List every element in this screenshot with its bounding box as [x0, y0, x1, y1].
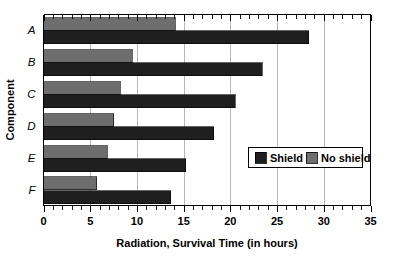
- bar-f-shield: [44, 191, 171, 204]
- x-tick-label-5: 5: [87, 215, 93, 227]
- bar-f-no-shield: [44, 177, 97, 190]
- legend-label-no-shield: No shield: [321, 152, 371, 164]
- x-tick-label-35: 35: [364, 215, 376, 227]
- category-label-b: B: [28, 56, 36, 68]
- category-label-e: E: [28, 152, 36, 164]
- chart-svg: 05101520253035 ABCDEF Radiation, Surviva…: [0, 0, 393, 260]
- legend-label-shield: Shield: [270, 152, 303, 164]
- bar-a-no-shield: [44, 18, 176, 31]
- bar-d-no-shield: [44, 114, 114, 127]
- legend-swatch-shield: [255, 152, 266, 163]
- x-tick-label-0: 0: [40, 215, 46, 227]
- category-label-c: C: [27, 88, 36, 100]
- bar-d-shield: [44, 127, 214, 140]
- category-label-d: D: [27, 120, 35, 132]
- bar-b-no-shield: [44, 50, 133, 63]
- x-tick-label-20: 20: [224, 215, 236, 227]
- bar-e-shield: [44, 159, 186, 172]
- bar-b-shield: [44, 63, 263, 76]
- legend[interactable]: Shield No shield: [249, 148, 371, 168]
- category-label-f: F: [28, 184, 36, 196]
- bar-a-shield: [44, 31, 309, 44]
- bar-e-no-shield: [44, 146, 108, 159]
- x-tick-label-15: 15: [178, 215, 190, 227]
- y-axis-title: Component: [4, 79, 16, 140]
- legend-swatch-no-shield: [306, 152, 317, 163]
- category-label-a: A: [27, 24, 36, 36]
- x-tick-label-25: 25: [271, 215, 283, 227]
- x-tick-label-30: 30: [318, 215, 330, 227]
- x-tick-label-10: 10: [131, 215, 143, 227]
- bar-c-shield: [44, 95, 236, 108]
- bar-chart: 05101520253035 ABCDEF Radiation, Surviva…: [0, 0, 393, 260]
- x-axis-title: Radiation, Survival Time (in hours): [116, 237, 298, 249]
- bar-c-no-shield: [44, 82, 121, 95]
